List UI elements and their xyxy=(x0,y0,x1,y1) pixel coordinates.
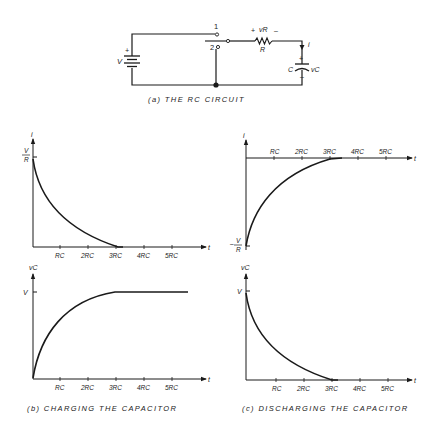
svg-text:2RC: 2RC xyxy=(294,148,308,155)
circuit-caption: (a) THE RC CIRCUIT xyxy=(148,95,245,104)
svg-text:3RC: 3RC xyxy=(325,385,338,392)
svg-text:R: R xyxy=(236,246,241,253)
svg-text:RC: RC xyxy=(55,252,65,259)
svg-text:2RC: 2RC xyxy=(296,385,310,392)
svg-text:R: R xyxy=(24,156,29,163)
vr-plus: + xyxy=(251,27,255,34)
source-plus: + xyxy=(125,47,129,54)
capacitor-label: C xyxy=(288,66,294,73)
svg-text:RC: RC xyxy=(270,148,280,155)
svg-text:2RC: 2RC xyxy=(80,384,94,391)
source-label: V xyxy=(117,57,123,66)
x-axis-label: t xyxy=(208,244,211,251)
svg-text:V: V xyxy=(236,237,241,244)
svg-text:4RC: 4RC xyxy=(137,252,150,259)
y-axis-label: vC xyxy=(29,264,39,271)
discharging-caption: (c) DISCHARGING THE CAPACITOR xyxy=(242,404,409,413)
vc-minus: – xyxy=(300,73,304,80)
capacitor-icon xyxy=(295,64,309,71)
chart-charging-voltage: vC V t RC 2RC 3RC 4RC 5RC (b) CHARGING T… xyxy=(23,264,211,413)
vr-label: vR xyxy=(259,26,268,33)
svg-text:V: V xyxy=(24,147,29,154)
vr-minus: – xyxy=(274,27,278,34)
curve xyxy=(246,293,338,380)
curve xyxy=(33,159,123,247)
svg-text:5RC: 5RC xyxy=(381,385,394,392)
svg-text:i: i xyxy=(243,132,245,139)
chart-discharging-current: i – V R t RC 2RC 3RC 4RC 5RC xyxy=(229,132,417,253)
svg-text:5RC: 5RC xyxy=(165,252,178,259)
svg-text:4RC: 4RC xyxy=(351,148,364,155)
resistor-icon xyxy=(255,38,272,44)
chart-charging-current: i V R t RC 2RC 3RC 4RC 5RC xyxy=(22,131,211,259)
svg-text:–: – xyxy=(229,240,234,247)
svg-text:vC: vC xyxy=(241,264,251,271)
charging-caption: (b) CHARGING THE CAPACITOR xyxy=(27,404,177,413)
vc-plus: + xyxy=(299,55,303,62)
svg-text:5RC: 5RC xyxy=(379,148,392,155)
svg-text:RC: RC xyxy=(55,384,65,391)
y-marker: V xyxy=(23,289,29,296)
y-axis-label: i xyxy=(31,131,33,138)
current-arrow-icon xyxy=(300,45,305,50)
svg-text:4RC: 4RC xyxy=(353,385,366,392)
switch-icon xyxy=(205,33,230,88)
switch-pos2-label: 2 xyxy=(210,43,214,52)
vc-label: vC xyxy=(311,66,321,73)
svg-text:V: V xyxy=(237,288,243,295)
svg-text:3RC: 3RC xyxy=(109,252,122,259)
resistor-label: R xyxy=(260,46,265,53)
svg-text:t: t xyxy=(208,376,211,383)
curve xyxy=(246,158,342,246)
svg-text:t: t xyxy=(414,377,417,384)
svg-text:2RC: 2RC xyxy=(80,252,94,259)
svg-text:3RC: 3RC xyxy=(109,384,122,391)
battery-icon xyxy=(124,56,140,67)
switch-pos1-label: 1 xyxy=(214,22,218,31)
curve xyxy=(33,292,188,378)
svg-text:5RC: 5RC xyxy=(165,384,178,391)
svg-text:3RC: 3RC xyxy=(323,148,336,155)
current-label: i xyxy=(308,41,310,48)
svg-text:RC: RC xyxy=(272,385,282,392)
rc-circuit: + V 1 2 + vR – R i + – C vC (a) THE RC C… xyxy=(117,22,321,104)
svg-text:4RC: 4RC xyxy=(137,384,150,391)
chart-discharging-voltage: vC V t RC 2RC 3RC 4RC 5RC (c) DISCHARGIN… xyxy=(237,264,417,413)
svg-text:t: t xyxy=(414,155,417,162)
rc-figure: + V 1 2 + vR – R i + – C vC (a) THE RC C… xyxy=(0,0,436,436)
